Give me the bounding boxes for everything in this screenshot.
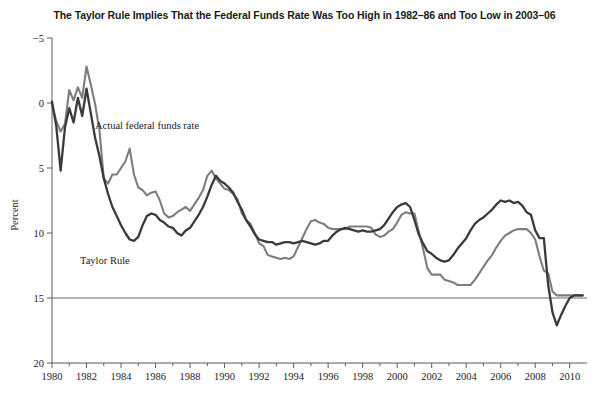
x-tick-label: 1988 (180, 371, 201, 382)
chart-plot-area: 20151050−5 19801982198419861988199019921… (0, 0, 609, 396)
x-tick-label: 1982 (76, 371, 97, 382)
x-tick-label: 1980 (42, 371, 63, 382)
x-tick-label: 1990 (214, 371, 235, 382)
figure-container: The Taylor Rule Implies That the Federal… (0, 0, 609, 396)
y-tick-label: 20 (34, 358, 45, 369)
x-tick-label: 2000 (387, 371, 408, 382)
x-tick-label: 2002 (421, 371, 442, 382)
x-tick-label: 2006 (490, 371, 511, 382)
x-tick-label: 1998 (352, 371, 373, 382)
y-tick-label: 15 (34, 293, 45, 304)
line-chart-svg: 20151050−5 19801982198419861988199019921… (0, 0, 609, 396)
x-tick-label: 2010 (559, 371, 580, 382)
x-tick-label: 2008 (525, 371, 546, 382)
series-line-actual-federal-funds-rate (52, 67, 583, 296)
x-tick-label: 1996 (318, 371, 339, 382)
x-tick-label: 2004 (456, 371, 478, 382)
y-tick-label: 10 (34, 228, 45, 239)
x-tick-label: 1992 (249, 371, 270, 382)
x-tick-label: 1986 (145, 371, 166, 382)
y-tick-label: −5 (33, 33, 44, 44)
y-axis-title: Percent (9, 199, 20, 231)
y-tick-label: 0 (39, 98, 44, 109)
y-axis: 20151050−5 (33, 33, 52, 369)
x-tick-label: 1994 (283, 371, 305, 382)
x-axis: 1980198219841986198819901992199419961998… (42, 363, 588, 382)
annotation-taylor-rule: Taylor Rule (80, 255, 130, 266)
x-tick-label: 1984 (111, 371, 133, 382)
y-tick-label: 5 (39, 163, 44, 174)
data-series-group (52, 67, 583, 326)
annotation-actual-federal-funds-rate: Actual federal funds rate (95, 120, 199, 131)
